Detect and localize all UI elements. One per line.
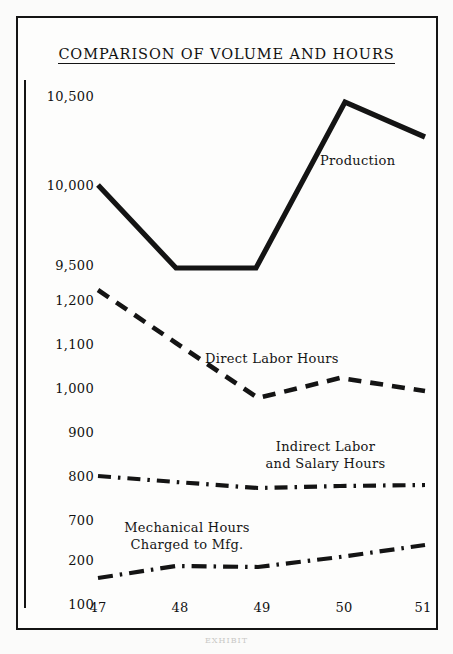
- y-tick-label-1000: 1,000: [22, 381, 94, 396]
- y-tick-label-9500: 9,500: [22, 258, 94, 273]
- series-annotation-indirect-labor: Indirect Labor and Salary Hours: [248, 438, 403, 472]
- chart-title: COMPARISON OF VOLUME AND HOURS: [0, 46, 453, 62]
- y-tick-label-1100: 1,100: [22, 337, 94, 352]
- y-tick-label-1200: 1,200: [22, 293, 94, 308]
- x-tick-label-49: 49: [239, 600, 285, 615]
- x-tick-label-51: 51: [400, 600, 446, 615]
- y-tick-label-800: 800: [22, 469, 94, 484]
- series-annotation-direct-labor-hours: Direct Labor Hours: [205, 350, 339, 367]
- chart-title-text: COMPARISON OF VOLUME AND HOURS: [58, 46, 394, 64]
- y-tick-label-10500: 10,500: [22, 89, 94, 104]
- series-annotation-mechanical-hours: Mechanical Hours Charged to Mfg.: [112, 519, 262, 553]
- y-tick-label-900: 900: [22, 425, 94, 440]
- y-tick-label-10000: 10,000: [22, 178, 94, 193]
- series-annotation-indirect-labor-line1: Indirect Labor: [248, 438, 403, 455]
- figure-caption: EXHIBIT: [0, 636, 453, 645]
- series-annotation-indirect-labor-line2: and Salary Hours: [248, 455, 403, 472]
- y-tick-label-700: 700: [22, 513, 94, 528]
- x-tick-label-48: 48: [157, 600, 203, 615]
- y-tick-label-200: 200: [22, 553, 94, 568]
- series-annotation-mechanical-hours-line1: Mechanical Hours: [112, 519, 262, 536]
- x-tick-label-50: 50: [321, 600, 367, 615]
- series-annotation-mechanical-hours-line2: Charged to Mfg.: [112, 536, 262, 553]
- series-annotation-production: Production: [320, 152, 395, 169]
- page-canvas: COMPARISON OF VOLUME AND HOURS 10,500 10…: [0, 0, 453, 654]
- x-tick-label-47: 47: [75, 600, 121, 615]
